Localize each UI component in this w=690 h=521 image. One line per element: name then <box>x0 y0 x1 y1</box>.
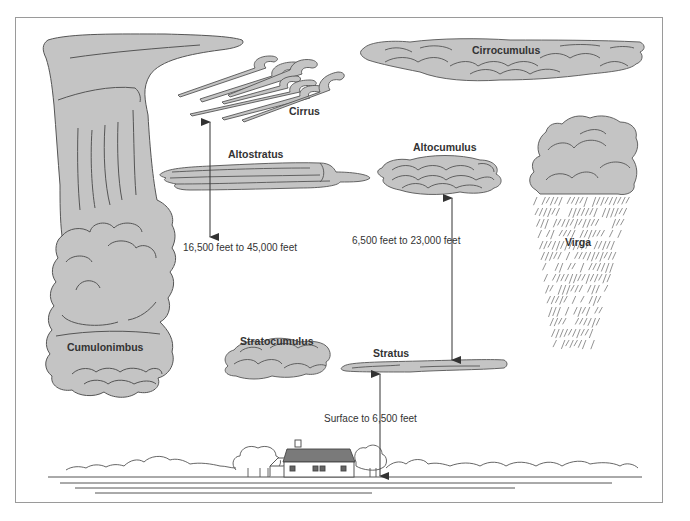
label-cirrus: Cirrus <box>289 106 320 117</box>
label-altitude-high: 16,500 feet to 45,000 feet <box>183 243 297 253</box>
label-altitude-middle: 6,500 feet to 23,000 feet <box>352 236 460 246</box>
label-virga: Virga <box>565 237 591 248</box>
label-altitude-low: Surface to 6,500 feet <box>324 414 417 424</box>
label-altocumulus: Altocumulus <box>413 142 477 153</box>
label-cumulonimbus: Cumulonimbus <box>67 342 143 353</box>
altocumulus-cloud-icon <box>378 156 501 195</box>
diagram-canvas <box>0 0 690 521</box>
cloud-types-diagram: Cumulonimbus Cirrus Cirrocumulus Altostr… <box>0 0 690 521</box>
label-altostratus: Altostratus <box>228 149 283 160</box>
label-stratocumulus: Stratocumulus <box>240 336 314 347</box>
label-stratus: Stratus <box>373 348 409 359</box>
label-cirrocumulus: Cirrocumulus <box>472 45 540 56</box>
